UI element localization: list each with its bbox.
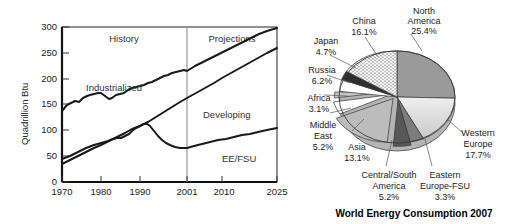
pie-label-eastern-europe-line1: Eastern — [429, 170, 460, 180]
label-eefsu: EE/FSU — [222, 153, 256, 164]
pie-label-north-america-value: 25.4% — [411, 26, 437, 36]
pie-label-eastern-europe-line2: Europe-FSU — [420, 181, 470, 191]
x-tick-2001: 2001 — [176, 186, 197, 197]
pie-label-russia-value: 6.2% — [312, 76, 333, 86]
pie-label-china-name: China — [352, 16, 376, 26]
x-tick-1970: 1970 — [51, 186, 72, 197]
series-developing — [62, 48, 277, 164]
pie-label-asia-value: 13.1% — [344, 153, 370, 163]
label-developing: Developing — [203, 109, 251, 120]
y-tick-300: 300 — [41, 21, 57, 32]
pie-label-africa-value: 3.1% — [309, 104, 330, 114]
pie-label-western-europe-line1: Western — [461, 128, 494, 138]
y-tick-100: 100 — [41, 124, 57, 135]
y-tick-150: 150 — [41, 98, 57, 109]
pie-label-russia-name: Russia — [308, 65, 336, 75]
y-tick-50: 50 — [46, 150, 57, 161]
label-industrialized: Industrialized — [86, 82, 142, 93]
pie-label-china-value: 16.1% — [351, 27, 377, 37]
pie-label-central-south-america-line2: America — [372, 181, 405, 191]
pie-slice-north-america[interactable] — [397, 51, 455, 98]
y-tick-200: 200 — [41, 73, 57, 84]
x-tick-1990: 1990 — [129, 186, 150, 197]
combined-figure-svg: Quadrillion Btu 0 50 100 150 200 — [0, 0, 505, 224]
pie-label-japan-value: 4.7% — [316, 47, 337, 57]
pie-label-africa-name: Africa — [307, 93, 330, 103]
pie-chart-caption: World Energy Consumption 2007 — [335, 208, 492, 219]
pie-label-central-south-america-line1: Central/South — [361, 170, 416, 180]
pie-label-middle-east-line2: East — [314, 131, 333, 141]
pie-label-asia-name: Asia — [348, 142, 366, 152]
y-tick-250: 250 — [41, 47, 57, 58]
pie-chart: North America 25.4% China 16.1% Japan 4.… — [307, 6, 494, 219]
x-tick-2010: 2010 — [213, 186, 234, 197]
pie-label-north-america-line1: North — [413, 6, 435, 16]
y-axis-title: Quadrillion Btu — [19, 83, 30, 145]
label-history: History — [109, 33, 139, 44]
pie-label-middle-east-line1: Middle — [310, 120, 337, 130]
pie-label-eastern-europe-value: 3.3% — [435, 192, 456, 202]
pie-label-central-south-america-value: 5.2% — [379, 192, 400, 202]
line-chart: Quadrillion Btu 0 50 100 150 200 — [19, 21, 288, 197]
series-industrialized — [62, 28, 277, 111]
pie-label-western-europe-value: 17.7% — [465, 150, 491, 160]
pie-label-middle-east-value: 5.2% — [313, 142, 334, 152]
pie-label-japan-name: Japan — [314, 36, 339, 46]
pie-label-western-europe-line2: Europe — [463, 139, 492, 149]
x-tick-2025: 2025 — [266, 186, 287, 197]
figure-container: Quadrillion Btu 0 50 100 150 200 — [0, 0, 505, 224]
pie-label-north-america-line2: America — [407, 16, 440, 26]
x-tick-1980: 1980 — [90, 186, 111, 197]
